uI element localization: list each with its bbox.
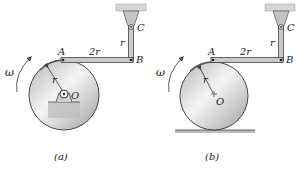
label-bc-length: r	[270, 37, 276, 48]
link-bc	[279, 26, 284, 61]
ceiling-support	[116, 4, 146, 11]
label-c: C	[137, 22, 145, 33]
label-ab-length: 2r	[88, 46, 101, 57]
mechanism-diagram: ω A 2r B C r r O (a) ω A 2	[0, 0, 307, 177]
base-support	[48, 102, 80, 118]
omega-arrow-icon	[169, 58, 182, 92]
ceiling-support	[265, 4, 295, 11]
ground	[175, 130, 255, 133]
pin-b	[280, 59, 283, 62]
omega-arrow-icon	[17, 58, 30, 92]
omega-label: ω	[5, 66, 14, 79]
pin-b	[130, 59, 133, 62]
omega-label: ω	[156, 66, 165, 79]
label-o: O	[71, 90, 79, 101]
caption-b: (b)	[205, 151, 219, 162]
figure-b: ω A 2r B C r r O (b)	[156, 4, 295, 162]
label-ab-length: 2r	[239, 46, 252, 57]
pin-a	[62, 59, 65, 62]
link-ab	[211, 58, 283, 63]
pin-o-dot	[63, 93, 65, 95]
caption-a: (a)	[54, 151, 68, 162]
label-a: A	[57, 46, 65, 57]
figure-a: ω A 2r B C r r O (a)	[5, 4, 146, 162]
label-b: B	[285, 54, 293, 65]
link-ab	[61, 58, 133, 63]
pin-c-dot	[280, 26, 282, 28]
link-bc	[129, 26, 134, 61]
label-o: O	[216, 96, 224, 107]
label-c: C	[287, 22, 295, 33]
label-bc-length: r	[120, 37, 126, 48]
label-b: B	[135, 54, 143, 65]
label-a: A	[207, 46, 215, 57]
pin-a	[212, 59, 215, 62]
pin-c-dot	[130, 26, 132, 28]
